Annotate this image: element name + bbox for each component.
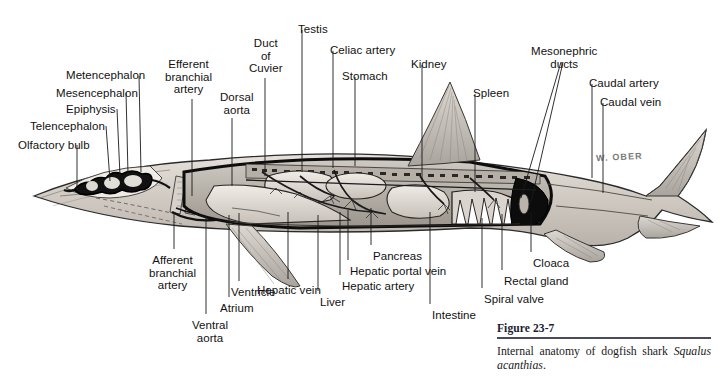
label-hepatic-artery: Hepatic artery — [342, 280, 414, 293]
label-spleen: Spleen — [473, 87, 509, 100]
label-dorsal-aorta: Dorsal aorta — [220, 91, 254, 116]
label-ventral-aorta: Ventral aorta — [192, 319, 228, 344]
label-hepatic-portal-vein: Hepatic portal vein — [350, 265, 446, 278]
label-metencephalon: Metencephalon — [66, 69, 145, 82]
second-dorsal-fin — [646, 130, 706, 196]
label-kidney: Kidney — [411, 58, 446, 71]
label-efferent-branchial-artery: Efferent branchial artery — [165, 58, 212, 96]
label-mesencephalon: Mesencephalon — [56, 87, 138, 100]
label-pancreas: Pancreas — [373, 250, 422, 263]
label-olfactory-bulb: Olfactory bulb — [18, 139, 90, 152]
first-dorsal-fin — [408, 82, 480, 166]
label-rectal-gland: Rectal gland — [504, 275, 569, 288]
caption-divider — [497, 337, 711, 339]
label-atrium: Atrium — [220, 302, 254, 315]
label-stomach: Stomach — [342, 70, 388, 83]
label-hepatic-vein: Hepatic vein — [257, 284, 321, 297]
label-caudal-vein: Caudal vein — [600, 96, 661, 109]
leader-line-mesencephalon — [126, 93, 128, 174]
caption-text: Internal anatomy of dogfish shark Squalu… — [497, 344, 711, 373]
caudal-fin-lower-lobe — [638, 216, 700, 238]
label-mesonephric-ducts: Mesonephric ducts — [531, 45, 597, 70]
pectoral-fin — [226, 224, 300, 287]
label-spiral-valve: Spiral valve — [484, 293, 544, 306]
figure-container: Olfactory bulbTelencephalonEpiphysisMese… — [0, 0, 718, 385]
caption-title: Figure 23-7 — [497, 322, 711, 334]
label-liver: Liver — [320, 296, 345, 309]
leader-line-epiphysis — [117, 109, 120, 176]
label-celiac-artery: Celiac artery — [330, 44, 395, 57]
label-epiphysis: Epiphysis — [66, 103, 116, 116]
label-testis: Testis — [298, 23, 328, 36]
caption-text-after: . — [543, 358, 546, 372]
leader-line-metencephalon — [139, 76, 141, 172]
label-caudal-artery: Caudal artery — [589, 77, 659, 90]
caption-text-before: Internal anatomy of dogfish shark — [497, 344, 674, 358]
label-afferent-branchial-artery: Afferent branchial artery — [149, 254, 196, 292]
label-duct-of-cuvier: Duct of Cuvier — [249, 37, 283, 75]
figure-caption: Figure 23-7 Internal anatomy of dogfish … — [497, 322, 711, 373]
label-telencephalon: Telencephalon — [30, 120, 105, 133]
label-intestine: Intestine — [432, 309, 476, 322]
label-cloaca: Cloaca — [533, 257, 569, 270]
